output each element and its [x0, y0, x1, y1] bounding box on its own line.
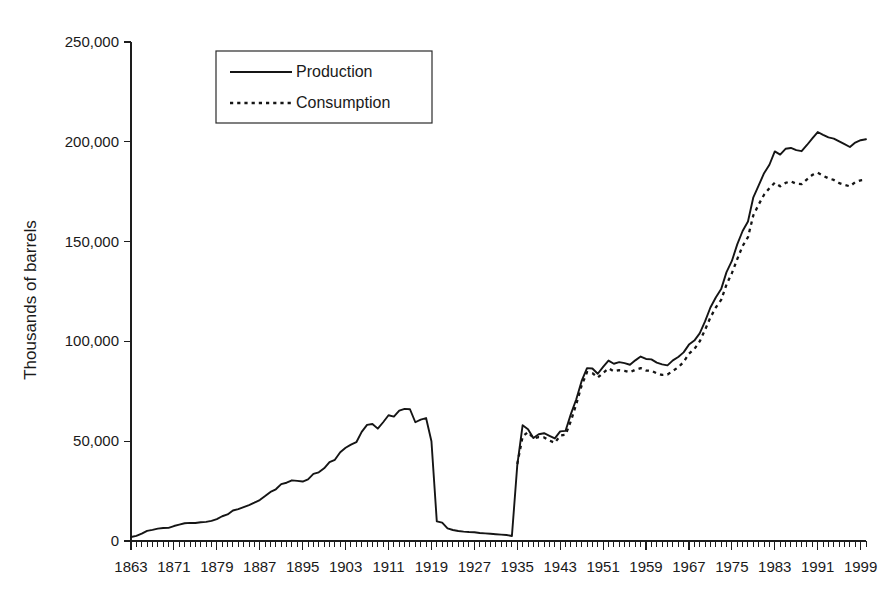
x-tick-label: 1887: [243, 558, 276, 575]
x-tick-label: 1975: [715, 558, 748, 575]
x-tick-label: 1911: [372, 558, 404, 575]
x-tick-label: 1935: [501, 558, 534, 575]
x-tick-label: 1951: [586, 558, 619, 575]
x-tick-label: 1863: [114, 558, 147, 575]
y-axis-title: Thousands of barrels: [21, 220, 40, 380]
x-axis: 1863187118791887189519031911191919271935…: [114, 541, 877, 575]
y-tick-label: 0: [111, 532, 119, 549]
series-line-production: [131, 132, 866, 537]
x-tick-label: 1959: [629, 558, 662, 575]
x-tick-label: 1879: [200, 558, 233, 575]
line-chart: 050,000100,000150,000200,000250,000 1863…: [0, 0, 882, 603]
y-tick-label: 50,000: [73, 432, 119, 449]
x-tick-label: 1895: [286, 558, 319, 575]
legend-box: [216, 51, 432, 123]
y-axis: 050,000100,000150,000200,000250,000: [65, 33, 131, 549]
x-tick-label: 1991: [801, 558, 834, 575]
chart-container: 050,000100,000150,000200,000250,000 1863…: [0, 0, 882, 603]
x-tick-label: 1903: [329, 558, 362, 575]
x-tick-label: 1967: [672, 558, 705, 575]
chart-legend: ProductionConsumption: [216, 51, 432, 123]
x-tick-label: 1871: [157, 558, 190, 575]
legend-label-production: Production: [296, 63, 373, 80]
x-tick-label: 1943: [544, 558, 577, 575]
x-tick-label: 1927: [458, 558, 491, 575]
legend-label-consumption: Consumption: [296, 94, 390, 111]
x-tick-label: 1919: [415, 558, 448, 575]
y-tick-label: 100,000: [65, 332, 119, 349]
x-tick-label: 1983: [758, 558, 791, 575]
data-series-group: [131, 132, 866, 537]
y-tick-label: 200,000: [65, 133, 119, 150]
y-tick-label: 150,000: [65, 233, 119, 250]
x-tick-label: 1999: [844, 558, 877, 575]
y-tick-label: 250,000: [65, 33, 119, 50]
